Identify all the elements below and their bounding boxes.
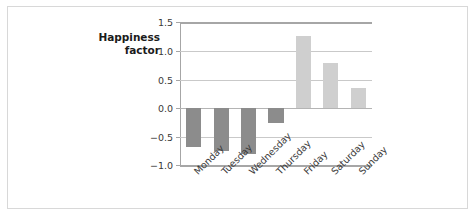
y-tick-mark — [176, 165, 180, 166]
y-axis-title: Happiness factor — [78, 31, 160, 56]
y-tick-mark — [176, 108, 180, 109]
bar-monday — [186, 108, 201, 147]
bar-chart-figure: Happiness factor 1.51.00.50.0−0.5−1.0 Mo… — [0, 0, 476, 224]
x-axis-tick-labels: MondayTuesdayWednesdayThursdayFridaySatu… — [180, 169, 372, 219]
y-tick-label: 0.5 — [158, 74, 173, 85]
y-tick-label: 0.0 — [158, 103, 173, 114]
gridline-1.0: 1.0 — [180, 51, 372, 52]
y-tick-label: −0.5 — [150, 132, 173, 143]
y-tick-mark — [176, 80, 180, 81]
y-tick-label: 1.0 — [158, 45, 173, 56]
screenshot-page: Happiness factor 1.51.00.50.0−0.5−1.0 Mo… — [0, 0, 476, 224]
y-tick-label: −1.0 — [150, 160, 173, 171]
y-tick-mark — [176, 22, 180, 23]
y-tick-mark — [176, 51, 180, 52]
bar-thursday — [268, 108, 283, 123]
y-tick-label: 1.5 — [158, 17, 173, 28]
bar-friday — [296, 36, 311, 108]
gridline-0.5: 0.5 — [180, 80, 372, 81]
gridline-1.5: 1.5 — [180, 22, 372, 24]
bar-sunday — [351, 88, 366, 108]
bar-saturday — [323, 63, 338, 108]
y-tick-mark — [176, 137, 180, 138]
